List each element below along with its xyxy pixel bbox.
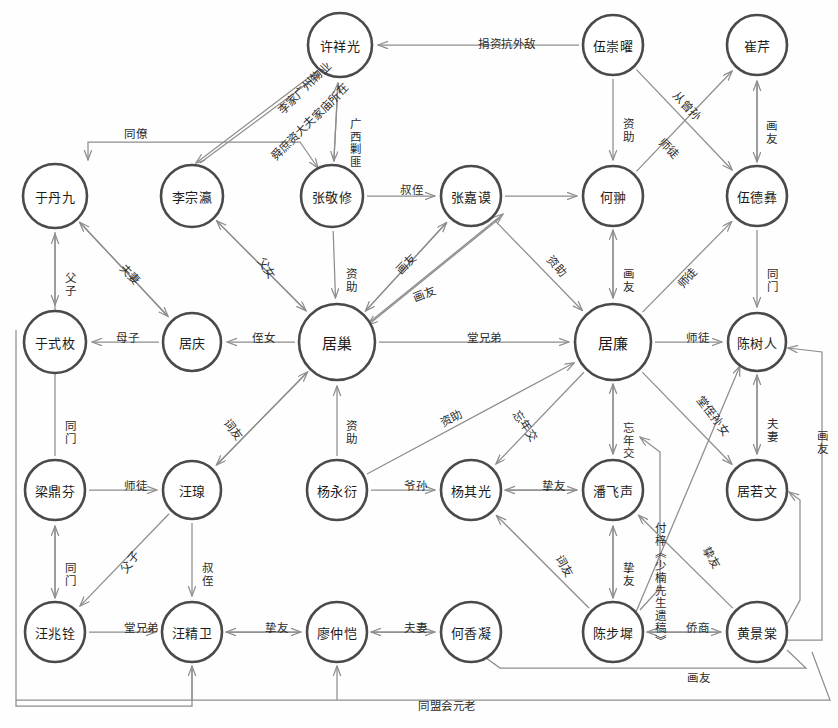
edge-zhangjiamo-julian bbox=[495, 220, 583, 310]
node-circle-yangyongyan[interactable] bbox=[307, 460, 367, 520]
edge-tongliao-yudanjiu bbox=[88, 142, 208, 160]
node-circle-xuxiangguang[interactable] bbox=[308, 13, 372, 77]
node-circle-wuchongyao[interactable] bbox=[583, 15, 643, 75]
node-circle-cuiqin[interactable] bbox=[727, 15, 787, 75]
edge-juchao-zhangjiamo-2 bbox=[371, 214, 503, 321]
edge-yangyongyan-julian bbox=[367, 363, 574, 474]
edge-chenbuchi-yangqiguang bbox=[496, 515, 589, 608]
edge-wuchongyao-wudeyi bbox=[636, 70, 732, 170]
node-circle-lizongying[interactable] bbox=[161, 165, 223, 227]
edge-xuxiangguang-zhangjingxiu bbox=[334, 83, 338, 161]
edge-lizongying-xuxiangguang bbox=[200, 74, 320, 163]
edge-layer bbox=[16, 45, 830, 706]
edge-wangquan-juchao bbox=[216, 372, 307, 465]
node-circle-juqing[interactable] bbox=[163, 313, 221, 371]
graph-svg bbox=[0, 0, 838, 728]
edge-tongmenghui-rail bbox=[16, 652, 830, 706]
edge-tongliao-branch bbox=[208, 142, 318, 168]
edge-huangjingtang-juruowen bbox=[787, 492, 800, 624]
node-circle-yushimei[interactable] bbox=[24, 311, 86, 373]
node-circle-zhangjiamo[interactable] bbox=[441, 166, 501, 226]
edge-juqing-yudanjiu bbox=[80, 222, 168, 316]
node-circle-huangjingtang[interactable] bbox=[727, 602, 787, 662]
edge-hechong-cuiqin bbox=[636, 71, 732, 171]
node-circle-wangzhaoquan[interactable] bbox=[25, 602, 85, 662]
node-circle-zhangjingxiu[interactable] bbox=[301, 165, 363, 227]
node-circle-wudeyi[interactable] bbox=[727, 166, 787, 226]
node-circle-hexiangning[interactable] bbox=[441, 602, 501, 662]
node-circle-wangquan[interactable] bbox=[163, 461, 221, 519]
node-circle-wangjingwei[interactable] bbox=[162, 602, 222, 662]
node-circle-chenbuchi[interactable] bbox=[583, 602, 643, 662]
node-layer bbox=[23, 13, 787, 662]
node-circle-liaozhongkai[interactable] bbox=[307, 602, 367, 662]
edge-zhangjingxiu-juchao bbox=[333, 231, 335, 298]
diagram-canvas: 许祥光伍崇曜崔芹于丹九李宗瀛张敬修张嘉谟何翀伍德彝于式枚居庆居巢居廉陈树人梁鼎芬… bbox=[0, 0, 838, 728]
edge-julian-yangqiguang bbox=[496, 372, 584, 464]
edge-fuzi-shaonan bbox=[640, 437, 660, 610]
node-circle-yangqiguang[interactable] bbox=[441, 460, 501, 520]
edge-chenbuchi-chenshuren bbox=[636, 366, 740, 612]
edge-julian-wudeyi bbox=[642, 222, 731, 312]
edge-zhangjiamo-juchao-2 bbox=[368, 218, 500, 325]
edge-wangquan-wangzhaoquan bbox=[80, 514, 169, 606]
node-circle-panfeisheng[interactable] bbox=[583, 460, 643, 520]
node-circle-juchao[interactable] bbox=[299, 304, 375, 380]
node-circle-hechong[interactable] bbox=[583, 166, 643, 226]
node-circle-yudanjiu[interactable] bbox=[23, 164, 87, 228]
edge-xuxiangguang-lizongying bbox=[196, 72, 316, 163]
node-circle-juruowen[interactable] bbox=[727, 460, 787, 520]
node-circle-chenshuren[interactable] bbox=[728, 313, 786, 371]
node-circle-julian[interactable] bbox=[575, 304, 651, 380]
edge-juchao-lizongying bbox=[217, 221, 306, 311]
node-circle-liangdingfen[interactable] bbox=[25, 460, 85, 520]
edge-zhangjiamo-juchao bbox=[365, 223, 446, 312]
edge-huangjingtang-panfeisheng bbox=[639, 515, 733, 608]
